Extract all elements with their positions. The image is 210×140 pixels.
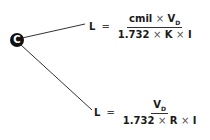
fraction: VD 1.732 × R × I <box>121 99 199 126</box>
numerator: cmil × VD <box>127 13 182 28</box>
equals: = <box>106 107 114 118</box>
term-1732: 1.732 <box>123 115 155 126</box>
connector-bottom <box>21 45 92 110</box>
times: × <box>176 29 184 40</box>
denominator: 1.732 × R × I <box>121 114 199 126</box>
numerator: VD <box>151 99 168 114</box>
term-cmil: cmil <box>129 13 152 24</box>
lhs: L <box>94 107 100 118</box>
term-r: R <box>170 115 178 126</box>
denominator: 1.732 × K × I <box>116 28 194 40</box>
sub-d: D <box>175 19 180 26</box>
term-v: V <box>153 99 161 110</box>
lhs: L <box>89 21 95 32</box>
times: × <box>158 115 166 126</box>
term-k: K <box>165 29 173 40</box>
connector-top <box>22 24 85 38</box>
node-c-label: C <box>10 33 24 47</box>
equals: = <box>101 21 109 32</box>
times: × <box>156 13 164 24</box>
formula-length-r: L = VD 1.732 × R × I <box>94 99 199 126</box>
times: × <box>153 29 161 40</box>
times: × <box>181 115 189 126</box>
formula-length-k: L = cmil × VD 1.732 × K × I <box>89 13 194 40</box>
term-i: I <box>193 115 197 126</box>
sub-d: D <box>161 105 166 112</box>
term-1732: 1.732 <box>118 29 150 40</box>
fraction: cmil × VD 1.732 × K × I <box>116 13 194 40</box>
term-i: I <box>188 29 192 40</box>
